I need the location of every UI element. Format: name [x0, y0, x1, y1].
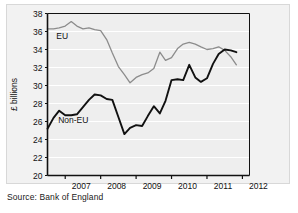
y-tick-label: 32 [33, 63, 43, 73]
y-tick-label: 36 [33, 27, 43, 37]
series-label-non-eu: Non-EU [58, 115, 88, 125]
y-tick-label: 20 [33, 171, 43, 181]
y-tick-label: 26 [33, 117, 43, 127]
plot-background [48, 14, 250, 176]
x-tick-label: 2010 [178, 181, 197, 191]
x-tick-label: 2011 [214, 181, 233, 191]
x-tick-label: 2008 [107, 181, 126, 191]
y-axis-title-text: £ billions [9, 78, 19, 111]
y-tick-label: 38 [33, 9, 43, 19]
y-axis-tick-labels: 20222426283032343638 [33, 9, 43, 181]
x-tick-label: 2012 [249, 181, 268, 191]
source-note: Source: Bank of England [7, 192, 103, 202]
x-axis-tick-labels: 200720082009201020112012 [72, 181, 268, 191]
y-tick-label: 28 [33, 99, 43, 109]
y-tick-label: 30 [33, 81, 43, 91]
series-label-eu: EU [56, 31, 68, 41]
line-chart: 20222426283032343638 2007200820092010201… [0, 0, 298, 213]
y-tick-label: 24 [33, 135, 43, 145]
x-tick-label: 2009 [143, 181, 162, 191]
x-tick-label: 2007 [72, 181, 91, 191]
y-tick-label: 34 [33, 45, 43, 55]
y-axis-title: £ billions [9, 78, 19, 111]
y-tick-label: 22 [33, 153, 43, 163]
chart-figure: 20222426283032343638 2007200820092010201… [0, 0, 298, 213]
